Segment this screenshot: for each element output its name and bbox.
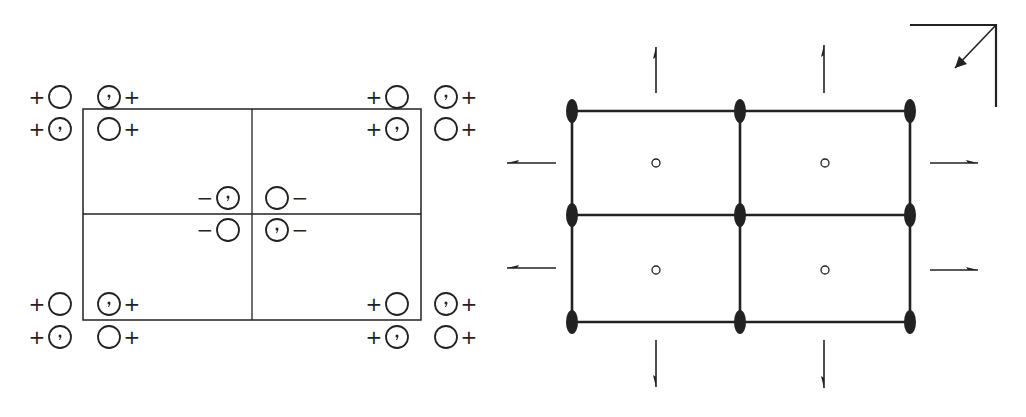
- general-position: −: [197, 186, 239, 210]
- comma-enantiomorph-icon: [108, 302, 111, 305]
- general-position: +: [29, 85, 71, 109]
- height-sign-label: +: [461, 85, 478, 109]
- general-position: +: [435, 85, 477, 109]
- general-position: +: [366, 117, 408, 141]
- general-position: +: [29, 117, 71, 141]
- axes-orientation-icon: [910, 25, 996, 107]
- position-circle-icon: [266, 187, 288, 209]
- general-position: +: [98, 325, 140, 349]
- height-sign-label: −: [292, 218, 309, 242]
- comma-enantiomorph-icon: [276, 228, 279, 231]
- comma-enantiomorph-icon: [396, 127, 399, 130]
- screw-axis-arrow-icon: [653, 47, 656, 93]
- comma-enantiomorph-icon: [59, 335, 62, 338]
- inversion-center-icon: [821, 159, 829, 167]
- height-sign-label: +: [29, 292, 46, 316]
- position-circle-icon: [217, 219, 239, 241]
- general-position: −: [197, 218, 239, 242]
- general-position: −: [266, 218, 308, 242]
- twofold-axis-icon: [566, 203, 578, 227]
- screw-axis-arrow-icon: [507, 160, 556, 163]
- general-position: +: [98, 85, 140, 109]
- comma-enantiomorph-icon: [59, 127, 62, 130]
- height-sign-label: +: [461, 292, 478, 316]
- height-sign-label: −: [292, 186, 309, 210]
- height-sign-label: +: [366, 85, 383, 109]
- height-sign-label: +: [461, 325, 478, 349]
- position-circle-icon: [49, 86, 71, 108]
- height-sign-label: −: [197, 186, 214, 210]
- height-sign-label: −: [197, 218, 214, 242]
- screw-axis-arrow-icon: [930, 160, 978, 163]
- general-position: +: [29, 325, 71, 349]
- height-sign-label: +: [29, 85, 46, 109]
- height-sign-label: +: [124, 117, 141, 141]
- position-circle-icon: [386, 86, 408, 108]
- screw-axis-arrow-icon: [653, 340, 656, 387]
- inversion-center-icon: [821, 266, 829, 274]
- height-sign-label: +: [366, 325, 383, 349]
- twofold-axis-icon: [566, 99, 578, 123]
- twofold-axis-icon: [904, 99, 916, 123]
- height-sign-label: +: [124, 85, 141, 109]
- position-circle-icon: [386, 293, 408, 315]
- screw-axis-arrow-icon: [821, 340, 824, 388]
- comma-enantiomorph-icon: [445, 302, 448, 305]
- twofold-axis-icon: [734, 310, 746, 334]
- height-sign-label: +: [29, 325, 46, 349]
- height-sign-label: +: [366, 117, 383, 141]
- space-group-diagram: ++++++++−−−−++++++++: [0, 0, 1026, 417]
- height-sign-label: +: [29, 117, 46, 141]
- general-position: +: [366, 292, 408, 316]
- position-circle-icon: [435, 118, 457, 140]
- height-sign-label: +: [124, 325, 141, 349]
- general-positions-panel: ++++++++−−−−++++++++: [29, 85, 478, 349]
- general-position: +: [366, 85, 408, 109]
- screw-axis-arrow-icon: [930, 267, 978, 270]
- general-position: +: [435, 117, 477, 141]
- comma-enantiomorph-icon: [445, 95, 448, 98]
- general-position: +: [98, 292, 140, 316]
- inversion-center-icon: [652, 159, 660, 167]
- general-position: +: [435, 325, 477, 349]
- inversion-center-icon: [652, 266, 660, 274]
- general-position: +: [98, 117, 140, 141]
- twofold-axis-icon: [566, 310, 578, 334]
- general-position: +: [435, 292, 477, 316]
- height-sign-label: +: [366, 292, 383, 316]
- position-circle-icon: [98, 326, 120, 348]
- position-circle-icon: [98, 118, 120, 140]
- comma-enantiomorph-icon: [396, 335, 399, 338]
- height-sign-label: +: [124, 292, 141, 316]
- twofold-axis-icon: [734, 99, 746, 123]
- screw-axis-arrow-icon: [507, 265, 556, 268]
- height-sign-label: +: [461, 117, 478, 141]
- symmetry-elements-panel: [507, 25, 996, 388]
- twofold-axis-icon: [734, 203, 746, 227]
- general-position: +: [29, 292, 71, 316]
- comma-enantiomorph-icon: [108, 95, 111, 98]
- position-circle-icon: [435, 326, 457, 348]
- general-position: −: [266, 186, 308, 210]
- position-circle-icon: [49, 293, 71, 315]
- screw-axis-arrow-icon: [821, 45, 824, 93]
- twofold-axis-icon: [904, 310, 916, 334]
- general-position: +: [366, 325, 408, 349]
- twofold-axis-icon: [904, 203, 916, 227]
- comma-enantiomorph-icon: [227, 196, 230, 199]
